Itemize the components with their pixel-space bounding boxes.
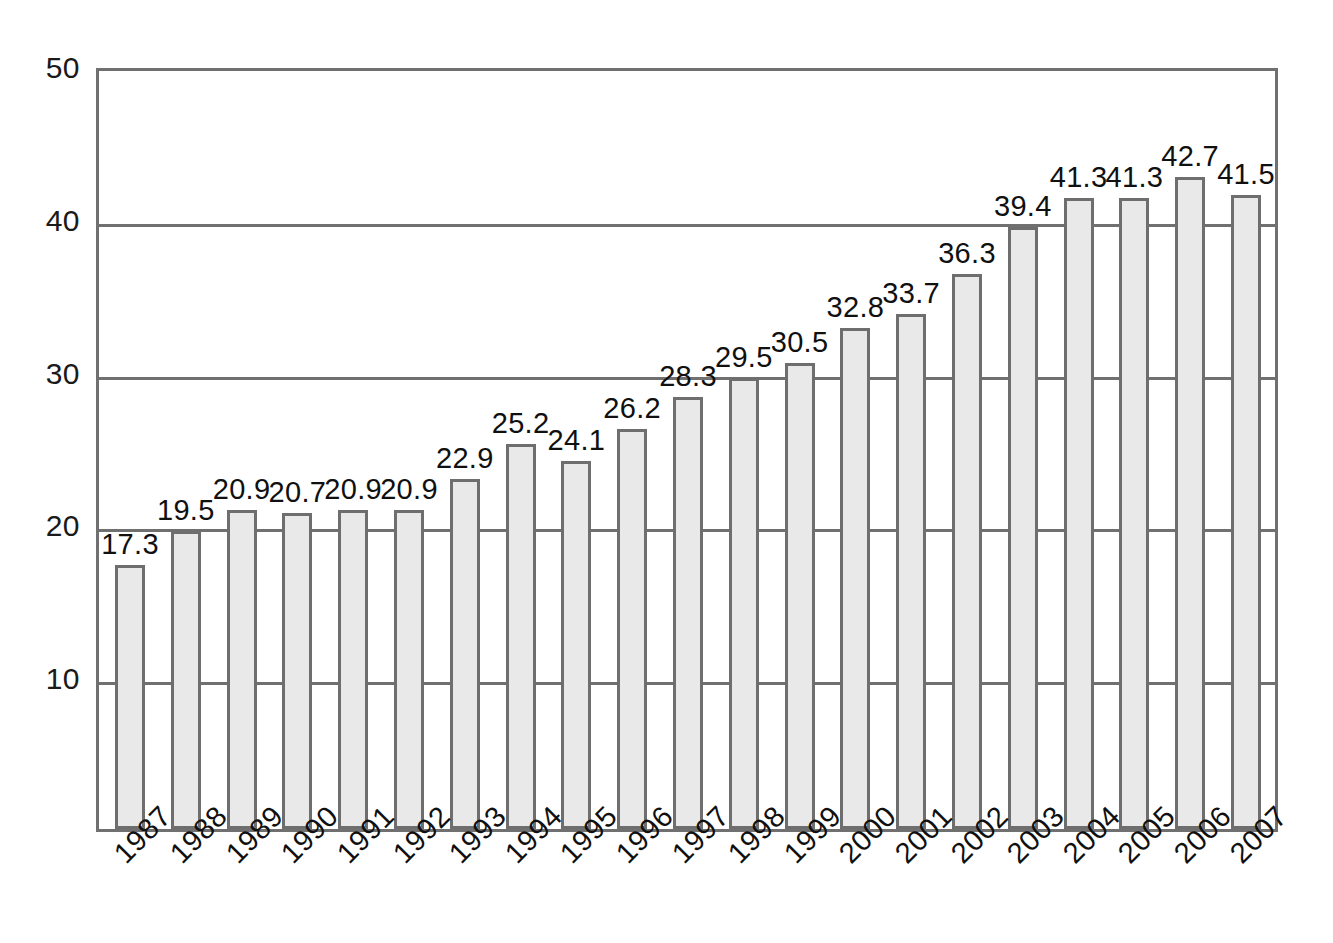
bar-group: 17.3	[102, 71, 158, 829]
bar-group: 41.3	[1051, 71, 1107, 829]
bar-group: 20.9	[214, 71, 270, 829]
bar-1999	[785, 363, 815, 829]
bar-value-label-2001: 33.7	[882, 279, 940, 308]
bar-group: 20.9	[325, 71, 381, 829]
bar-2003	[1008, 227, 1038, 829]
bar-group: 30.5	[772, 71, 828, 829]
bar-group: 29.5	[716, 71, 772, 829]
bar-1997	[673, 397, 703, 829]
y-axis-tick-30: 30	[0, 359, 80, 389]
y-axis-tick-10: 10	[0, 664, 80, 694]
bar-group: 22.9	[437, 71, 493, 829]
bar-2006	[1175, 177, 1205, 829]
bar-value-label-2006: 42.7	[1161, 142, 1219, 171]
bar-2002	[952, 274, 982, 829]
bar-value-label-2005: 41.3	[1106, 163, 1164, 192]
bar-value-label-1989: 20.9	[213, 475, 271, 504]
bar-value-label-1987: 17.3	[101, 530, 159, 559]
bar-chart: 1020304050 17.319.520.920.720.920.922.92…	[0, 0, 1333, 943]
bar-group: 41.3	[1106, 71, 1162, 829]
bar-group: 28.3	[660, 71, 716, 829]
bar-group: 26.2	[604, 71, 660, 829]
bar-group: 19.5	[158, 71, 214, 829]
y-axis-tick-20: 20	[0, 511, 80, 541]
bar-value-label-1996: 26.2	[603, 394, 661, 423]
bar-group: 41.5	[1218, 71, 1274, 829]
bar-value-label-1991: 20.9	[324, 475, 382, 504]
bar-value-label-2002: 36.3	[938, 239, 996, 268]
bar-value-label-2003: 39.4	[994, 192, 1052, 221]
bar-1998	[729, 378, 759, 829]
bar-2000	[840, 328, 870, 829]
bar-value-label-1990: 20.7	[269, 478, 327, 507]
bar-value-label-1993: 22.9	[436, 444, 494, 473]
bar-value-label-2007: 41.5	[1217, 160, 1275, 189]
bar-group: 33.7	[883, 71, 939, 829]
bar-group: 32.8	[827, 71, 883, 829]
bar-value-label-2000: 32.8	[827, 293, 885, 322]
bar-group: 25.2	[493, 71, 549, 829]
bar-2005	[1119, 198, 1149, 829]
y-axis-tick-40: 40	[0, 206, 80, 236]
bar-group: 42.7	[1162, 71, 1218, 829]
bar-2007	[1231, 195, 1261, 829]
plot-area: 17.319.520.920.720.920.922.925.224.126.2…	[96, 68, 1278, 832]
bar-group: 39.4	[995, 71, 1051, 829]
bar-group: 20.7	[269, 71, 325, 829]
bar-value-label-1999: 30.5	[771, 328, 829, 357]
bar-value-label-1995: 24.1	[548, 426, 606, 455]
bar-group: 24.1	[548, 71, 604, 829]
bar-value-label-1997: 28.3	[659, 362, 717, 391]
bar-1987	[115, 565, 145, 829]
bar-value-label-1994: 25.2	[492, 409, 550, 438]
bar-group: 36.3	[939, 71, 995, 829]
bar-value-label-1992: 20.9	[380, 475, 438, 504]
bar-group: 20.9	[381, 71, 437, 829]
bar-2004	[1064, 198, 1094, 829]
bar-value-label-2004: 41.3	[1050, 163, 1108, 192]
bar-2001	[896, 314, 926, 829]
y-axis-tick-50: 50	[0, 53, 80, 83]
bar-value-label-1988: 19.5	[157, 496, 215, 525]
bar-value-label-1998: 29.5	[715, 343, 773, 372]
